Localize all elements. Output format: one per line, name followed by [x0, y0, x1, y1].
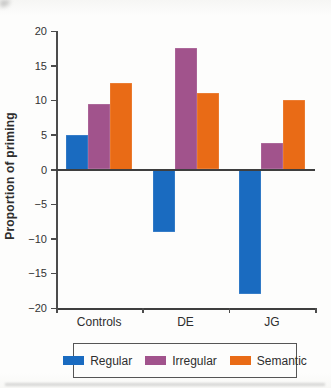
bar-regular-de: [153, 170, 175, 232]
x-tick: [56, 308, 58, 313]
y-tick-label: 10: [0, 93, 47, 107]
y-tick: [51, 134, 56, 136]
y-tick: [51, 65, 56, 67]
y-tick-label: 0: [0, 163, 47, 177]
y-tick: [51, 273, 56, 275]
y-tick-label: −15: [0, 266, 47, 280]
bar-irregular-controls: [88, 104, 110, 170]
x-category-label: Controls: [56, 315, 142, 329]
y-tick-label: 20: [0, 24, 47, 38]
legend-swatch-regular-icon: [63, 356, 84, 365]
y-tick-label: −5: [0, 197, 47, 211]
bar-semantic-de: [197, 93, 219, 169]
x-axis-line: [56, 308, 315, 310]
legend-item-irregular: Irregular: [145, 354, 217, 368]
y-tick-label: −10: [0, 232, 47, 246]
legend-label-irregular: Irregular: [172, 354, 217, 368]
legend-item-regular: Regular: [63, 354, 132, 368]
x-category-label: JG: [229, 315, 315, 329]
y-tick-label: −20: [0, 301, 47, 315]
x-tick: [315, 308, 317, 313]
x-category-label: DE: [143, 315, 229, 329]
x-tick: [142, 308, 144, 313]
y-tick: [51, 31, 56, 33]
zero-line: [56, 169, 315, 171]
bar-irregular-jg: [261, 143, 283, 169]
y-tick: [51, 238, 56, 240]
y-tick-label: 15: [0, 59, 47, 73]
y-tick-label: 5: [0, 128, 47, 142]
legend: RegularIrregularSemantic: [73, 343, 297, 378]
bar-semantic-controls: [110, 83, 132, 170]
bar-irregular-de: [175, 48, 197, 169]
cropped-caption-line: [5, 383, 325, 386]
legend-label-regular: Regular: [90, 354, 132, 368]
x-tick: [229, 308, 231, 313]
y-tick: [51, 100, 56, 102]
bar-regular-jg: [239, 170, 261, 295]
legend-label-semantic: Semantic: [257, 354, 307, 368]
bar-semantic-jg: [283, 100, 305, 169]
priming-bar-chart-figure: Proportion of priming 20151050−5−10−15−2…: [0, 0, 331, 388]
bar-regular-controls: [66, 135, 88, 170]
plot-area: 20151050−5−10−15−20ControlsDEJG: [0, 0, 331, 340]
legend-swatch-irregular-icon: [145, 356, 166, 365]
legend-swatch-semantic-icon: [230, 356, 251, 365]
legend-item-semantic: Semantic: [230, 354, 307, 368]
y-tick: [51, 204, 56, 206]
